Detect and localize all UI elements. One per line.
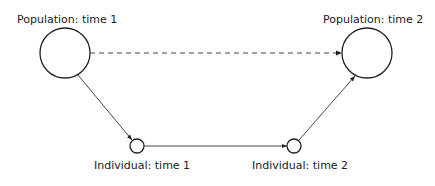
diagram-canvas: Population: time 1 Population: time 2 In… [0,0,435,186]
edge-pop1-ind1 [78,75,132,140]
node-population-time-2 [342,28,392,78]
node-individual-time-2 [287,139,301,153]
label-population-time-1: Population: time 1 [17,13,117,26]
edge-ind2-pop2 [299,76,355,140]
diagram-graphics [0,0,435,186]
label-population-time-2: Population: time 2 [323,13,423,26]
node-individual-time-1 [130,139,144,153]
node-population-time-1 [40,28,90,78]
label-individual-time-2: Individual: time 2 [252,159,348,172]
label-individual-time-1: Individual: time 1 [94,159,190,172]
